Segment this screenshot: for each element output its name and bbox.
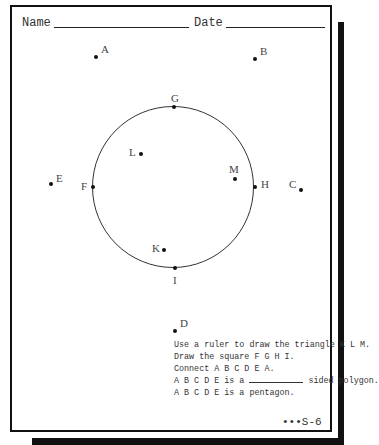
answer-blank[interactable] <box>249 375 303 383</box>
point-k <box>162 248 166 252</box>
label-i: I <box>173 274 177 286</box>
point-h <box>253 185 257 189</box>
label-d: D <box>180 317 188 329</box>
label-e: E <box>56 172 63 184</box>
point-l <box>139 152 143 156</box>
circle <box>92 106 254 268</box>
point-i <box>173 266 177 270</box>
date-label: Date <box>194 16 223 30</box>
point-f <box>91 185 95 189</box>
label-b: B <box>260 45 267 57</box>
name-label: Name <box>22 16 51 30</box>
point-b <box>253 57 257 61</box>
instruction-5: A B C D E is a pentagon. <box>174 388 379 400</box>
label-c: C <box>289 178 296 190</box>
point-e <box>49 182 53 186</box>
label-l: L <box>129 146 136 158</box>
label-a: A <box>101 43 109 55</box>
page-shadow-bottom <box>32 438 344 445</box>
point-a <box>94 55 98 59</box>
label-k: K <box>152 242 160 254</box>
label-h: H <box>261 178 269 190</box>
instruction-3: Connect A B C D E A. <box>174 364 379 376</box>
point-m <box>233 177 237 181</box>
date-field-line[interactable] <box>226 27 325 28</box>
instruction-4: A B C D E is a sided polygon. <box>174 375 379 388</box>
point-c <box>299 188 303 192</box>
name-field-line[interactable] <box>54 27 189 28</box>
instructions: Use a ruler to draw the triangle K L M.D… <box>174 340 379 400</box>
instruction-1: Use a ruler to draw the triangle K L M. <box>174 340 379 352</box>
page-code: •••S-6 <box>282 416 322 428</box>
instruction-2: Draw the square F G H I. <box>174 352 379 364</box>
label-m: M <box>229 163 239 175</box>
label-g: G <box>171 92 179 104</box>
point-d <box>173 329 177 333</box>
label-f: F <box>81 180 87 192</box>
point-g <box>172 105 176 109</box>
